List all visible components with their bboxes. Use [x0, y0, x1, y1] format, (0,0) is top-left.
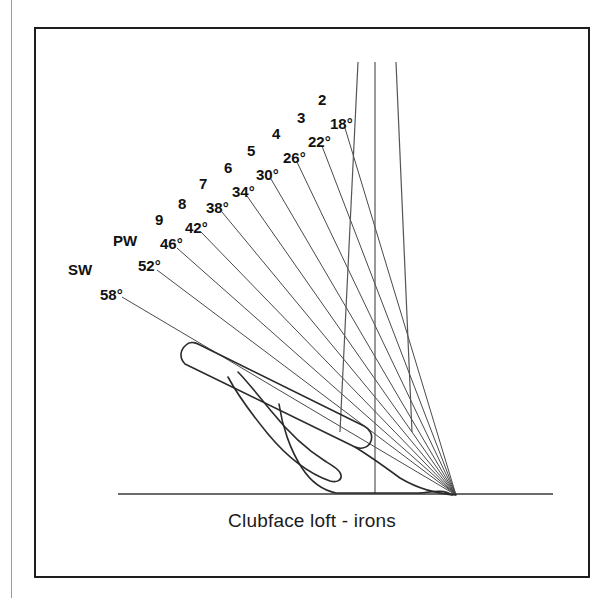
club-label-5: 5 [247, 143, 255, 158]
loft-ray-26deg [297, 162, 456, 495]
loft-label-sw: 58° [100, 287, 123, 302]
loft-label-4: 26° [283, 150, 306, 165]
club-label-pw: PW [113, 233, 137, 248]
shaft-axis-right [396, 62, 412, 432]
club-label-2: 2 [318, 92, 326, 107]
club-label-sw: SW [68, 262, 92, 277]
loft-ray-18deg [345, 128, 456, 495]
loft-ray-group [122, 128, 456, 495]
figure-caption: Clubface loft - irons [34, 510, 590, 532]
loft-ray-34deg [247, 196, 456, 495]
club-label-9: 9 [155, 212, 163, 227]
clubface-loft-diagram [0, 0, 613, 598]
loft-ray-58deg [122, 297, 456, 495]
club-label-4: 4 [272, 126, 280, 141]
loft-label-9: 46° [160, 236, 183, 251]
loft-ray-46deg [177, 248, 456, 495]
clubhead-outline [181, 343, 456, 495]
loft-ray-22deg [322, 146, 456, 495]
loft-label-2: 18° [330, 116, 353, 131]
loft-label-6: 34° [232, 184, 255, 199]
loft-ray-38deg [222, 212, 456, 495]
club-label-7: 7 [199, 176, 207, 191]
loft-label-5: 30° [256, 167, 279, 182]
club-label-8: 8 [178, 196, 186, 211]
loft-label-8: 42° [185, 220, 208, 235]
loft-ray-52deg [157, 270, 456, 495]
loft-label-7: 38° [206, 200, 229, 215]
loft-label-3: 22° [308, 134, 331, 149]
club-label-3: 3 [297, 110, 305, 125]
figure-page: 218°322°426°530°634°738°842°946°PW52°SW5… [0, 0, 613, 598]
loft-label-pw: 52° [138, 258, 161, 273]
club-label-6: 6 [224, 160, 232, 175]
